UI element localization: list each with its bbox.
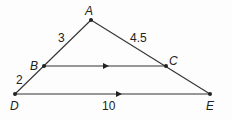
segment-AD bbox=[15, 20, 91, 94]
triangle-diagram: A B C D E 3 4.5 2 10 bbox=[0, 0, 232, 120]
point-B bbox=[42, 64, 46, 68]
length-AB: 3 bbox=[58, 31, 65, 45]
segment-AE bbox=[91, 20, 210, 94]
point-C bbox=[164, 64, 168, 68]
parallel-arrow-BC-icon bbox=[103, 63, 109, 69]
point-E bbox=[208, 92, 212, 96]
point-A bbox=[89, 18, 93, 22]
label-E: E bbox=[206, 99, 215, 113]
length-AC: 4.5 bbox=[130, 31, 147, 45]
diagram-canvas: A B C D E 3 4.5 2 10 bbox=[0, 0, 232, 120]
label-C: C bbox=[169, 54, 178, 68]
point-D bbox=[13, 92, 17, 96]
label-B: B bbox=[30, 59, 38, 73]
length-BD: 2 bbox=[16, 73, 23, 87]
length-DE: 10 bbox=[102, 99, 116, 113]
parallel-arrow-DE-icon bbox=[116, 91, 122, 97]
label-A: A bbox=[84, 4, 93, 18]
label-D: D bbox=[10, 99, 19, 113]
